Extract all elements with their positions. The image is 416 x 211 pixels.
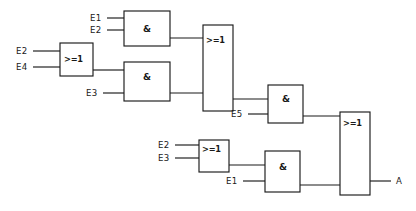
input-label-e2-or3: E2 [158,140,170,150]
gate-or4: >=1 [340,112,370,195]
gate-or2: >=1 [203,25,233,111]
gate-and1-label: & [143,23,151,34]
input-label-e2-or1: E2 [16,46,28,56]
gate-or2-label: >=1 [206,35,225,45]
gate-or4-label: >=1 [343,118,362,128]
gate-and1: & [124,11,170,46]
gate-and2-label: & [143,71,151,82]
gate-or1: >=1 [60,43,93,76]
gate-and3-label: & [282,93,290,104]
input-label-e4-or1: E4 [16,62,28,72]
gate-and2: & [124,62,170,101]
gate-or3: >=1 [199,140,229,172]
gate-and3-box [268,85,303,123]
input-label-e1-and4: E1 [226,176,238,186]
circuit-canvas: >=1 & & >=1 & >=1 & [0,0,416,211]
input-label-e5-and3: E5 [231,109,243,119]
input-label-e3-and2: E3 [86,88,98,98]
gate-and3: & [268,85,303,123]
gate-or3-label: >=1 [202,144,221,154]
input-label-e3-or3: E3 [158,153,170,163]
gate-or1-label: >=1 [64,54,83,64]
output-label-a: A [396,176,402,186]
gate-and4-label: & [279,161,287,172]
gate-and4: & [265,151,300,192]
input-label-e1-and1: E1 [90,13,102,23]
logic-circuit-diagram: >=1 & & >=1 & >=1 & [0,0,416,211]
input-label-e2-and1: E2 [90,25,102,35]
